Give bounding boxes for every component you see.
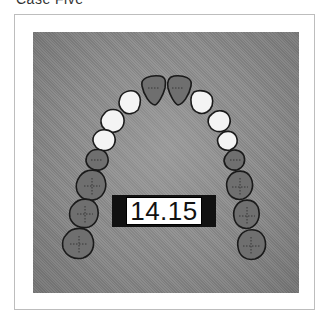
tooth-second-molar-right xyxy=(234,200,260,228)
tooth-first-premolar-left xyxy=(93,130,115,151)
dental-arch-illustration xyxy=(0,0,333,322)
tooth-first-premolar-right xyxy=(218,131,238,150)
tooth-central-incisor-left xyxy=(142,76,166,105)
tooth-lateral-incisor-left xyxy=(119,91,140,114)
tooth-third-molar-right xyxy=(238,230,266,260)
tooth-second-molar-left xyxy=(70,199,99,227)
measurement-label-bar: 14.15 xyxy=(112,195,216,227)
tooth-first-molar-left xyxy=(76,170,106,200)
tooth-first-molar-right xyxy=(227,171,253,199)
tooth-canine-right xyxy=(208,111,230,132)
tooth-canine-left xyxy=(101,110,124,133)
tooth-lateral-incisor-right xyxy=(191,91,213,114)
measurement-value: 14.15 xyxy=(126,197,202,225)
tooth-central-incisor-right xyxy=(168,76,192,105)
tooth-third-molar-left xyxy=(63,228,94,258)
